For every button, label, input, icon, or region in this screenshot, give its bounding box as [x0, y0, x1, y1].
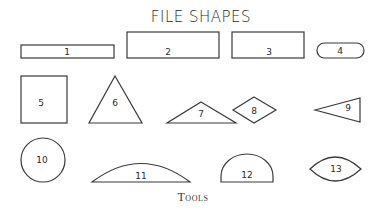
shape-8-diamond: 8	[233, 97, 276, 123]
shape-label: 2	[165, 47, 171, 57]
shape-label: 3	[266, 47, 272, 57]
shape-4-rounded-rectangle: 4	[317, 43, 364, 58]
shape-11-segment: 11	[92, 164, 190, 183]
shape-label: 12	[241, 170, 252, 180]
shape-label: 9	[345, 103, 351, 113]
shape-12-half-round: 12	[221, 154, 273, 182]
shape-9-narrow-triangle: 9	[315, 98, 360, 122]
shape-7-obtuse-triangle: 7	[167, 102, 236, 123]
shape-2-rectangle: 2	[127, 32, 219, 58]
shape-6-triangle: 6	[89, 76, 142, 123]
shape-label: 4	[337, 46, 343, 56]
shape-13-lens: 13	[310, 157, 361, 181]
shape-label: 5	[38, 98, 44, 108]
shape-label: 1	[64, 47, 70, 57]
diagram-caption: Tools	[0, 190, 382, 205]
shape-5-square: 5	[21, 76, 67, 123]
shape-label: 11	[135, 171, 146, 181]
file-shapes-diagram: 1 2 3 4 5 6 7 8 9 10 11 12	[0, 0, 382, 214]
shape-10-circle: 10	[21, 138, 65, 182]
shape-1-thin-rectangle: 1	[21, 45, 114, 58]
shape-label: 7	[198, 109, 204, 119]
shape-label: 10	[36, 155, 48, 165]
shape-3-rectangle: 3	[232, 32, 304, 58]
shape-label: 8	[251, 106, 257, 116]
shape-label: 13	[330, 164, 341, 174]
shape-label: 6	[112, 98, 118, 108]
